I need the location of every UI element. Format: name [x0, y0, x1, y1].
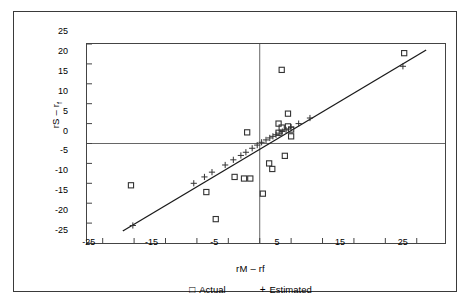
square-marker-icon: □ [189, 284, 195, 295]
actual-marker-square [260, 191, 265, 196]
y-axis-tick-label: -20 [42, 205, 68, 215]
y-axis-label-subscript: f [55, 102, 64, 104]
y-axis-tick-label: -10 [42, 165, 68, 175]
actual-marker-square [402, 51, 407, 56]
legend-item-label: Estimated [270, 284, 312, 295]
estimated-marker [222, 162, 228, 168]
actual-marker-square [232, 174, 237, 179]
figure-outer-border: rS – rf -25-20-15-10-50510152025 -25-15-… [13, 11, 457, 292]
y-axis-tick-label: 25 [42, 26, 68, 36]
estimated-marker [238, 152, 244, 158]
y-axis-tick-label: 10 [42, 86, 68, 96]
actual-marker-square [128, 183, 133, 188]
y-axis-tick-label: -15 [42, 185, 68, 195]
x-axis-tick-label: -15 [135, 237, 169, 247]
legend-item-actual: □Actual [189, 284, 225, 295]
estimated-marker [243, 149, 249, 155]
estimated-marker [296, 121, 302, 127]
y-axis-tick-label: -5 [42, 145, 68, 155]
legend-item-label: Actual [199, 284, 225, 295]
chart-legend: □Actual+Estimated [14, 284, 473, 295]
actual-marker-square [279, 67, 284, 72]
estimated-marker [209, 169, 215, 175]
actual-marker-square [245, 130, 250, 135]
actual-marker-square [248, 176, 253, 181]
plot-area [86, 43, 446, 244]
x-axis-tick-label: -5 [197, 237, 231, 247]
actual-marker-square [267, 161, 272, 166]
actual-marker-square [213, 217, 218, 222]
estimated-marker [201, 174, 207, 180]
estimated-marker [191, 180, 197, 186]
x-axis-tick-label: 15 [323, 237, 357, 247]
zero-lines-group [87, 44, 445, 243]
scatter-plot-svg [87, 44, 445, 243]
estimated-marker [230, 157, 236, 163]
actual-marker-square [289, 134, 294, 139]
legend-item-estimated: +Estimated [260, 284, 312, 295]
y-axis-tick-label: 5 [42, 106, 68, 116]
x-axis-tick-label: 5 [260, 237, 294, 247]
y-axis-tick-label: 20 [42, 46, 68, 56]
actual-marker-square [282, 153, 287, 158]
actual-markers-group [128, 51, 406, 222]
estimated-markers-group [130, 63, 406, 228]
regression-line [123, 50, 426, 231]
y-axis-tick-label: 0 [42, 126, 68, 136]
estimated-marker [400, 63, 406, 69]
actual-marker-square [241, 176, 246, 181]
actual-marker-square [285, 111, 290, 116]
estimated-marker [270, 133, 276, 139]
y-axis-tick-label: 15 [42, 66, 68, 76]
regression-line-group [123, 50, 426, 231]
plus-marker-icon: + [260, 284, 266, 295]
y-axis-tick-label: -25 [42, 225, 68, 235]
actual-marker-square [204, 189, 209, 194]
x-axis-label: rM – rf [14, 263, 473, 274]
figure-container: rS – rf -25-20-15-10-50510152025 -25-15-… [0, 0, 473, 304]
estimated-marker [249, 145, 255, 151]
x-axis-tick-label: -25 [72, 237, 106, 247]
actual-marker-square [270, 166, 275, 171]
x-axis-tick-label: 25 [386, 237, 420, 247]
